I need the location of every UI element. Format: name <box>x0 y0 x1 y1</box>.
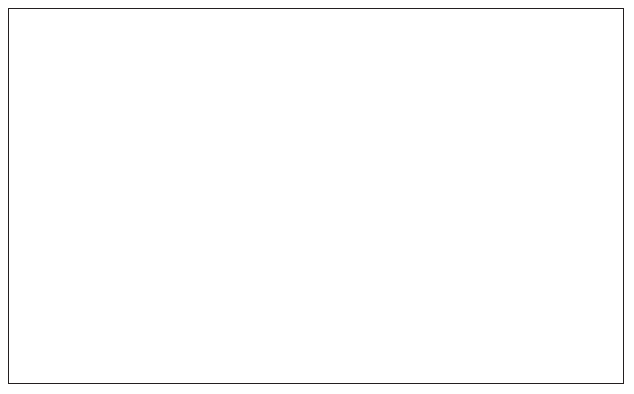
chart-figure: 0.00.20.40.60.81.00.000.050.100.15193019… <box>0 0 634 394</box>
figure-border <box>8 8 624 384</box>
